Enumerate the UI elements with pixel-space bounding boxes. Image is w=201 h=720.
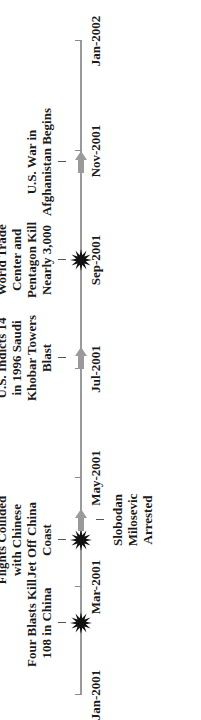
event-label-line: Khobar Towers <box>24 315 39 401</box>
axis-tick-label: May-2001 <box>88 450 104 506</box>
event-label-line: in 1996 Saudi <box>9 315 24 401</box>
axis-tick <box>75 694 81 695</box>
event-label-line: Slobodan <box>110 494 125 547</box>
event-label-line: Center and <box>9 222 24 298</box>
axis-tick-label: Jan-2001 <box>88 670 104 720</box>
event-label-line: 108 in China <box>39 579 54 667</box>
arrow-right-icon <box>75 151 87 173</box>
event-leader-line <box>58 161 66 162</box>
axis-tick-label: Mar-2001 <box>88 560 104 614</box>
event-label: U.S. Indicts 14in 1996 SaudiKhobar Tower… <box>0 315 54 401</box>
event-label: Four Blasts Kill108 in China <box>24 579 54 667</box>
event-label: U.S. SpyFlights Collidedwith ChineseJet … <box>0 496 54 585</box>
event-label-line: Arrested <box>140 494 155 547</box>
axis-tick <box>75 40 81 41</box>
event-label-line: Coast <box>39 496 54 585</box>
arrow-right-icon <box>75 509 87 531</box>
event-label-line: Four Blasts Kill <box>24 579 39 667</box>
star-burst-icon <box>69 611 93 635</box>
event-label-line: U.S. Indicts 14 <box>0 315 9 401</box>
axis-tick-label: Nov-2001 <box>88 125 104 178</box>
event-label-line: U.S. War in <box>24 108 39 216</box>
event-label-line: Pentagon Kill <box>24 222 39 298</box>
event-label-line: Flights Collided <box>0 496 9 585</box>
event-leader-line <box>58 539 66 540</box>
event-label-line: World Trade <box>0 222 9 298</box>
event-leader-line <box>58 259 66 260</box>
event-label-line: with Chinese <box>9 496 24 585</box>
event-label: SlobodanMilosevicArrested <box>110 494 155 547</box>
event-label-line: Jet Off China <box>24 496 39 585</box>
event-label: U.S. War inAfghanistan Begins <box>24 108 54 216</box>
arrow-right-icon <box>75 347 87 369</box>
event-leader-line <box>58 357 66 358</box>
event-leader-line <box>96 519 104 520</box>
star-burst-icon <box>69 248 93 272</box>
event-label: Attack onWorld TradeCenter andPentagon K… <box>0 222 54 298</box>
event-label-line: Nearly 3,000 <box>39 222 54 298</box>
event-label-line: Afghanistan Begins <box>39 108 54 216</box>
axis-tick <box>75 586 81 587</box>
axis-tick-label: Jul-2001 <box>88 345 104 393</box>
event-label-line: Milosevic <box>125 494 140 547</box>
axis-tick-label: Jan-2002 <box>88 16 104 67</box>
star-burst-icon <box>69 528 93 552</box>
event-leader-line <box>58 622 66 623</box>
axis-tick <box>75 477 81 478</box>
event-label-line: Blast <box>39 315 54 401</box>
